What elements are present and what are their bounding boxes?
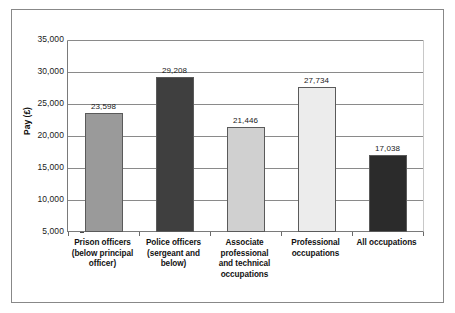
x-category-label: Associateprofessionaland technicaloccupa… [204, 238, 285, 280]
bar-value-label: 29,208 [162, 66, 187, 75]
x-category-label-line: Professional [275, 238, 356, 249]
x-category-label: Professionaloccupations [275, 238, 356, 259]
bar-slot: 21,446 [210, 41, 281, 232]
y-tick-label: 10,000 [20, 195, 64, 204]
chart-figure: Pay (£) 5,00010,00015,00020,00025,00030,… [0, 0, 455, 313]
bar-value-label: 27,734 [304, 76, 329, 85]
bar[interactable] [227, 127, 265, 232]
x-category-label-line: All occupations [346, 238, 427, 249]
y-tick-label: 15,000 [20, 163, 64, 172]
y-tick-label: 30,000 [20, 67, 64, 76]
x-tick-mark [68, 232, 69, 236]
bar[interactable] [369, 155, 407, 232]
bar-slot: 29,208 [139, 41, 210, 232]
y-tick-label: 25,000 [20, 99, 64, 108]
x-category-label-line: and technical [204, 259, 285, 270]
x-category-label-line: Prison officers [62, 238, 143, 249]
bar-slot: 23,598 [68, 41, 139, 232]
x-category-label-line: Police officers [133, 238, 214, 249]
bar-series: 23,59829,20821,44627,73417,038 [68, 41, 423, 232]
bar[interactable] [85, 113, 123, 232]
x-category-label-line: occupations [275, 249, 356, 260]
x-category-label-line: officer) [62, 259, 143, 270]
bar[interactable] [298, 87, 336, 232]
y-axis-ticks: 5,00010,00015,00020,00025,00030,00035,00… [16, 40, 64, 232]
y-tick-label: 35,000 [20, 35, 64, 44]
x-tick-mark [139, 232, 140, 236]
y-tick-label: 20,000 [20, 131, 64, 140]
bar-value-label: 21,446 [233, 116, 258, 125]
x-category-label-line: professional [204, 249, 285, 260]
x-category-label: All occupations [346, 238, 427, 249]
x-category-label-line: (sergeant and [133, 249, 214, 260]
x-tick-mark [281, 232, 282, 236]
bar[interactable] [156, 77, 194, 232]
x-category-label-line: below) [133, 259, 214, 270]
bar-slot: 27,734 [281, 41, 352, 232]
x-axis-labels: Prison officers(below principalofficer)P… [67, 238, 424, 300]
x-category-label-line: (below principal [62, 249, 143, 260]
bar-value-label: 23,598 [91, 102, 116, 111]
x-tick-mark [352, 232, 353, 236]
bar-value-label: 17,038 [375, 144, 400, 153]
x-category-label: Prison officers(below principalofficer) [62, 238, 143, 270]
x-tick-mark [423, 232, 424, 236]
y-tick-mark [80, 232, 84, 233]
y-tick-label: 5,000 [20, 227, 64, 236]
x-category-label: Police officers(sergeant andbelow) [133, 238, 214, 270]
x-category-label-line: Associate [204, 238, 285, 249]
bar-slot: 17,038 [352, 41, 423, 232]
x-category-label-line: occupations [204, 270, 285, 281]
x-tick-mark [210, 232, 211, 236]
